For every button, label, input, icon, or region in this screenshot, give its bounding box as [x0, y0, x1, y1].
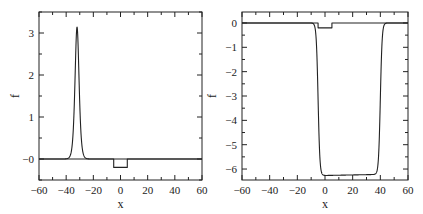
y-axis-label: f — [8, 94, 22, 98]
figure: −60−40−200204060−0123xf −60−40−200204060… — [0, 0, 423, 214]
x-tick-label: −60 — [30, 184, 48, 196]
x-tick-label: 40 — [169, 184, 181, 196]
plot-frame — [242, 12, 408, 180]
y-axis-label: f — [205, 94, 219, 98]
series-potential-well-line — [39, 159, 202, 167]
x-tick-label: −40 — [261, 184, 279, 196]
y-tick-label: 1 — [29, 111, 35, 123]
x-tick-label: 60 — [197, 184, 209, 196]
y-tick-label: −4 — [225, 114, 237, 126]
x-tick-label: 40 — [375, 184, 387, 196]
y-tick-label: −5 — [225, 139, 237, 151]
y-tick-label: −0 — [22, 153, 34, 165]
y-tick-label: 3 — [29, 27, 35, 39]
x-axis-label: x — [118, 197, 124, 211]
y-tick-label: 2 — [29, 69, 35, 81]
x-axis-label: x — [322, 197, 328, 211]
y-tick-label: −2 — [225, 66, 237, 78]
x-tick-label: 0 — [322, 184, 328, 196]
x-tick-label: 60 — [403, 184, 415, 196]
x-tick-label: −20 — [85, 184, 103, 196]
x-tick-label: 20 — [347, 184, 359, 196]
y-tick-label: −6 — [225, 163, 237, 175]
x-tick-label: −20 — [289, 184, 307, 196]
y-tick-label: −3 — [225, 90, 237, 102]
series-dark-trough-line — [242, 23, 408, 175]
right-plot-panel: −60−40−2002040600−1−2−3−4−5−6xf — [205, 12, 414, 211]
series-soliton-line — [39, 27, 202, 159]
y-tick-label: 0 — [232, 17, 238, 29]
x-tick-label: −60 — [233, 184, 251, 196]
left-plot-panel: −60−40−200204060−0123xf — [8, 12, 208, 211]
plot-frame — [39, 12, 202, 180]
x-tick-label: −40 — [58, 184, 76, 196]
x-tick-label: 20 — [142, 184, 154, 196]
x-tick-label: 0 — [118, 184, 124, 196]
y-tick-label: −1 — [225, 41, 237, 53]
